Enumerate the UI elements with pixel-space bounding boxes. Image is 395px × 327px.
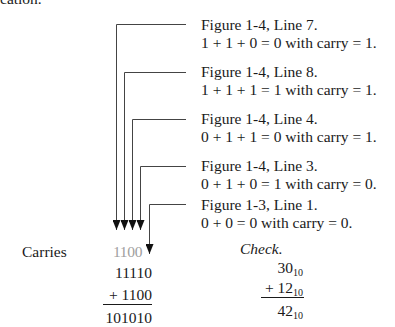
annotation-ref: Figure 1-4, Line 7. [201, 16, 318, 34]
check-addend-2: + 1210 [240, 279, 303, 297]
check-addend-1: 3010 [250, 259, 303, 277]
binary-result: 101010 [90, 309, 152, 327]
annotation-ref: Figure 1-4, Line 3. [201, 157, 318, 175]
sum-rule [103, 304, 152, 305]
annotation-equation: 0 + 1 + 1 = 0 with carry = 1. [201, 128, 377, 146]
carries-label: Carries [22, 243, 67, 261]
check-label: Check. [240, 240, 283, 258]
annotation-equation: 1 + 1 + 1 = 1 with carry = 1. [201, 81, 377, 99]
annotation-ref: Figure 1-3, Line 1. [201, 196, 318, 214]
addend-1: 11110 [100, 264, 152, 282]
annotation-equation: 0 + 1 + 0 = 1 with carry = 0. [201, 175, 377, 193]
annotation-ref: Figure 1-4, Line 4. [201, 110, 318, 128]
check-sum: 4210 [250, 302, 303, 320]
check-rule [261, 297, 304, 298]
annotation-equation: 1 + 1 + 0 = 0 with carry = 1. [201, 34, 377, 52]
carries-row: 1100 [113, 243, 142, 261]
annotation-equation: 0 + 0 = 0 with carry = 0. [201, 214, 353, 232]
addend-2: + 1100 [90, 286, 152, 304]
annotation-ref: Figure 1-4, Line 8. [201, 63, 318, 81]
